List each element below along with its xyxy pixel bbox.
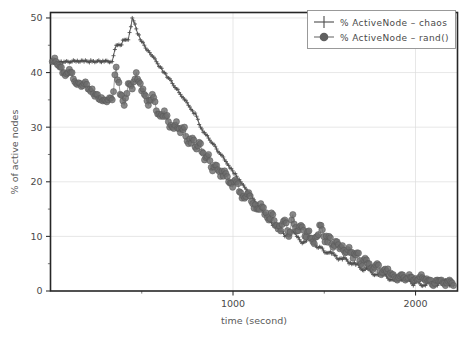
circle-marker	[140, 86, 146, 92]
circle-marker	[319, 227, 325, 233]
circle-marker	[152, 99, 158, 105]
circle-marker	[230, 184, 236, 190]
series-layer	[49, 16, 456, 289]
circle-marker	[327, 235, 333, 241]
x-axis-label: time (second)	[221, 315, 287, 326]
plot-frame	[51, 13, 458, 292]
chart-svg: 0102030405010002000 time (second) % of a…	[0, 0, 471, 338]
circle-marker	[278, 228, 284, 234]
legend-label-rand: % ActiveNode – rand()	[340, 33, 449, 43]
series-chaos	[50, 16, 455, 288]
circle-marker	[121, 102, 127, 108]
circle-marker	[69, 69, 75, 75]
x-tick-label: 2000	[403, 298, 427, 309]
circle-marker	[133, 69, 139, 75]
circle-marker	[116, 79, 122, 85]
circle-marker	[306, 228, 312, 234]
circle-marker	[287, 229, 293, 235]
x-tick-label: 1000	[221, 298, 245, 309]
circle-marker	[270, 211, 276, 217]
circle-marker	[129, 86, 135, 92]
y-tick-label: 30	[30, 122, 42, 133]
circle-marker	[205, 151, 211, 157]
circle-marker	[109, 97, 115, 103]
y-tick-label: 20	[30, 176, 42, 187]
chart-figure: 0102030405010002000 time (second) % of a…	[0, 0, 471, 338]
y-tick-label: 0	[36, 285, 42, 296]
circle-marker	[113, 64, 119, 70]
plus-marker	[128, 31, 132, 35]
grid-layer	[51, 13, 458, 292]
chart-legend: % ActiveNode – chaos % ActiveNode – rand…	[308, 11, 456, 49]
circle-marker	[181, 124, 187, 130]
series-rand	[49, 55, 456, 289]
plus-marker	[112, 54, 116, 58]
plus-marker	[113, 48, 117, 52]
plus-marker	[129, 25, 133, 29]
y-tick-label: 40	[30, 67, 42, 78]
circle-marker	[197, 140, 203, 146]
circle-marker-icon	[320, 33, 329, 42]
legend-label-chaos: % ActiveNode – chaos	[340, 18, 447, 28]
circle-marker	[450, 282, 456, 288]
series-line	[52, 18, 453, 286]
circle-marker	[290, 211, 296, 217]
circle-marker	[355, 250, 361, 256]
y-tick-label: 50	[30, 12, 42, 23]
circle-marker	[311, 241, 317, 247]
legend-box	[308, 11, 456, 49]
circle-marker	[164, 112, 170, 118]
y-tick-label: 10	[30, 231, 42, 242]
circle-marker	[207, 158, 213, 164]
circle-marker	[235, 181, 241, 187]
plus-marker	[134, 27, 138, 31]
circle-marker	[124, 90, 130, 96]
circle-marker	[375, 262, 381, 268]
circle-marker	[173, 119, 179, 125]
circle-marker	[137, 80, 143, 86]
circle-marker	[110, 88, 116, 94]
y-axis-label: % of active nodes	[9, 110, 20, 195]
